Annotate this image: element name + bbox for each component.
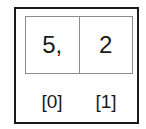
array-cell-0: 5, [26, 17, 79, 73]
array-cell-1: 2 [79, 17, 133, 73]
index-labels: [0] [1] [25, 90, 133, 114]
array-cells: 5, 2 [25, 16, 133, 74]
index-label-1: [1] [79, 90, 133, 114]
index-label-0: [0] [25, 90, 79, 114]
